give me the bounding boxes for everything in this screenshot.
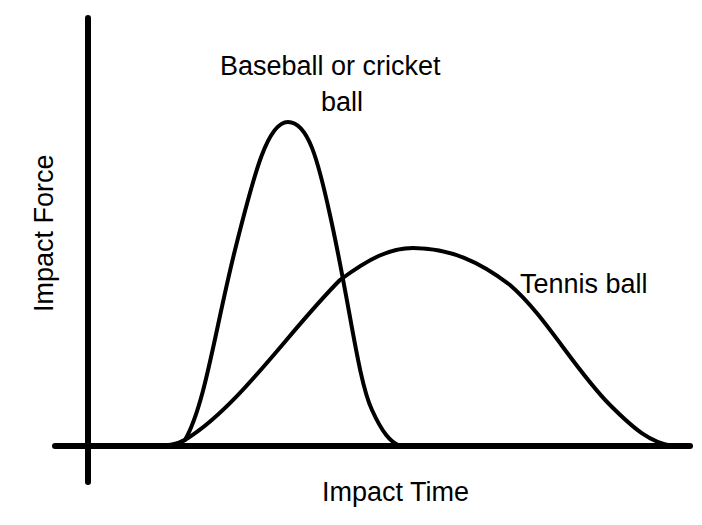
baseball-annotation-line2: ball [321,86,363,118]
y-axis-label: Impact Force [28,143,60,323]
x-axis-label: Impact Time [322,476,469,508]
baseball-annotation-line1: Baseball or cricket [220,50,441,82]
tennis-annotation: Tennis ball [520,268,648,300]
baseball-curve [155,122,400,446]
